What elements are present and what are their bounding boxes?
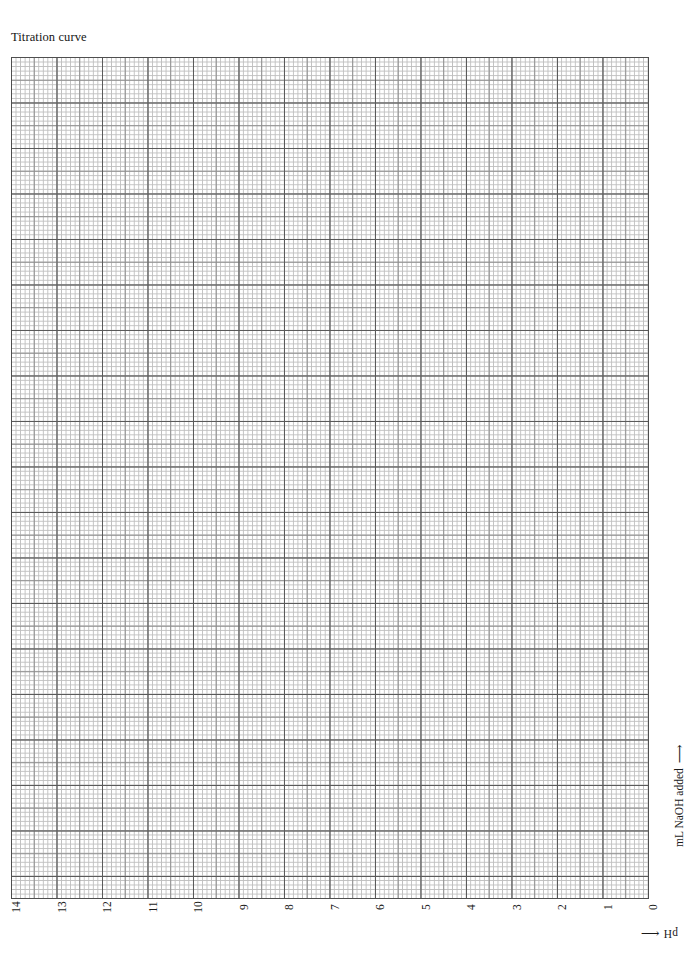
x-axis-tick-label: 7 xyxy=(329,890,341,924)
x-axis-caption-ph: pH ⟵ xyxy=(598,924,678,944)
x-axis-tick-label: 13 xyxy=(56,890,68,924)
x-axis-tick-label: 11 xyxy=(147,890,159,924)
x-axis-tick-label: 4 xyxy=(465,890,477,924)
x-axis-tick-labels: 14131211109876543210 xyxy=(11,899,649,935)
x-axis-tick-label: 10 xyxy=(192,890,204,924)
x-axis-tick-label: 5 xyxy=(420,890,432,924)
x-axis-tick-label: 6 xyxy=(374,890,386,924)
x-axis-tick-label: 9 xyxy=(238,890,250,924)
x-axis-tick-label: 2 xyxy=(556,890,568,924)
y-axis-caption-volume: mL NaOH added ⟶ xyxy=(667,707,688,847)
graph-paper-grid[interactable] xyxy=(11,57,649,899)
x-axis-tick-label: 3 xyxy=(511,890,523,924)
x-axis-tick-label: 0 xyxy=(647,890,659,924)
y-axis-caption-label: mL NaOH added xyxy=(672,768,686,847)
x-axis-caption-label: pH xyxy=(664,928,678,941)
x-axis-tick-label: 8 xyxy=(283,890,295,924)
left-arrow-icon: ⟵ xyxy=(642,928,660,941)
x-axis-tick-label: 1 xyxy=(602,890,614,924)
x-axis-tick-label: 12 xyxy=(101,890,113,924)
x-axis-tick-label: 14 xyxy=(10,890,22,924)
up-arrow-icon: ⟶ xyxy=(673,746,686,764)
page-title: Titration curve xyxy=(11,30,87,44)
